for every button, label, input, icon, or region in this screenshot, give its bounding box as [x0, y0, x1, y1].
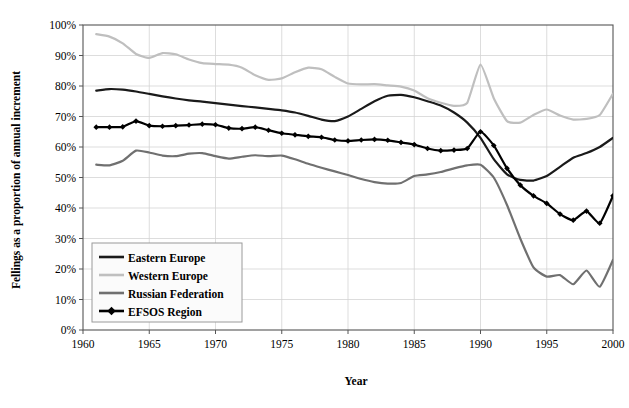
series-western-europe: [96, 34, 613, 123]
y-axis-tick-label: 50%: [55, 172, 77, 184]
y-axis-tick-labels: 0%10%20%30%40%50%60%70%80%90%100%: [49, 19, 83, 336]
series-marker: [292, 132, 298, 138]
legend-label: Russian Federation: [128, 288, 224, 300]
x-axis-tick-label: 1985: [403, 338, 426, 350]
series-marker: [332, 137, 338, 143]
x-axis-tick-label: 1960: [72, 338, 95, 350]
series-marker: [199, 121, 205, 127]
series-marker: [425, 146, 431, 152]
x-axis-tick-label: 2000: [602, 338, 625, 350]
series-marker: [213, 122, 219, 128]
series-marker: [146, 123, 152, 129]
series-marker: [186, 122, 192, 128]
x-axis-tick-label: 1970: [204, 338, 227, 350]
x-axis-title: Year: [345, 375, 368, 387]
series-marker: [305, 133, 311, 139]
x-axis-tick-label: 1965: [138, 338, 161, 350]
series-line: [96, 89, 613, 181]
series-efsos-region: [93, 118, 615, 226]
series-marker: [266, 127, 272, 133]
series-marker: [226, 125, 232, 131]
y-axis-tick-label: 10%: [55, 294, 77, 306]
legend-label: Eastern Europe: [128, 252, 205, 265]
chart-container: 0%10%20%30%40%50%60%70%80%90%100% 196019…: [0, 0, 629, 408]
series-marker: [358, 137, 364, 143]
series-marker: [173, 123, 179, 129]
series-marker: [451, 147, 457, 153]
series-marker: [372, 137, 378, 143]
series-marker: [438, 148, 444, 154]
x-axis-tick-label: 1980: [337, 338, 360, 350]
series-line: [96, 34, 613, 123]
series-marker: [133, 118, 139, 124]
series-marker: [345, 138, 351, 144]
series-marker: [239, 126, 245, 132]
y-axis-tick-label: 70%: [55, 111, 77, 123]
y-axis-title: Fellings as a proportion of annual incre…: [10, 71, 23, 289]
series-marker: [398, 140, 404, 146]
series-marker: [319, 134, 325, 140]
x-axis-tick-label: 1995: [535, 338, 558, 350]
y-axis-tick-label: 80%: [55, 80, 77, 92]
y-axis-tick-label: 90%: [55, 50, 77, 62]
series-marker: [252, 124, 258, 130]
series-marker: [279, 130, 285, 136]
series-marker: [385, 137, 391, 143]
series-marker: [160, 123, 166, 129]
chart-legend[interactable]: Eastern EuropeWestern EuropeRussian Fede…: [92, 243, 242, 322]
y-axis-tick-label: 40%: [55, 202, 77, 214]
line-chart: 0%10%20%30%40%50%60%70%80%90%100% 196019…: [0, 0, 629, 408]
y-axis-tick-label: 0%: [61, 324, 77, 336]
x-axis-tick-label: 1990: [469, 338, 492, 350]
series-eastern-europe: [96, 89, 613, 181]
y-axis-tick-label: 20%: [55, 263, 77, 275]
x-axis-tick-label: 1975: [270, 338, 293, 350]
x-axis-tick-labels: 196019651970197519801985199019952000: [72, 330, 625, 350]
legend-label: EFSOS Region: [128, 306, 202, 319]
series-marker: [107, 124, 113, 130]
y-axis-tick-label: 60%: [55, 141, 77, 153]
series-marker: [93, 124, 99, 130]
series-marker: [411, 142, 417, 148]
y-axis-tick-label: 100%: [49, 19, 76, 31]
legend-label: Western Europe: [128, 270, 208, 283]
y-axis-tick-label: 30%: [55, 233, 77, 245]
